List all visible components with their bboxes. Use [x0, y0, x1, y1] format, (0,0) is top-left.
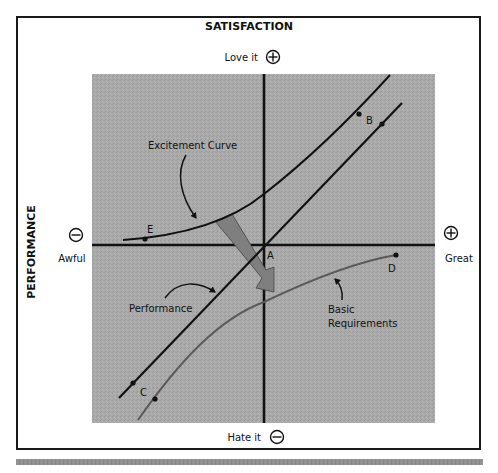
point-label-c: C [140, 387, 147, 398]
point-label-e: E [147, 224, 153, 235]
point-label-b: B [366, 115, 373, 126]
point-b-performance [379, 121, 384, 126]
bottom-axis-label: Hate it [227, 432, 261, 443]
point-label-a: A [267, 250, 274, 261]
point-b-excitement [356, 111, 361, 116]
point-e [142, 236, 147, 241]
point-label-d: D [388, 263, 396, 274]
performance-label: Performance [129, 303, 192, 314]
basic-requirements-label-line1: Basic [328, 304, 354, 315]
point-d [393, 252, 398, 257]
plus-circle-icon [267, 51, 280, 64]
right-axis-label: Great [445, 253, 473, 264]
minus-circle-icon [271, 431, 284, 444]
point-c-performance [130, 380, 135, 385]
basic-requirements-label-line2: Requirements [328, 318, 398, 329]
excitement-curve-label: Excitement Curve [148, 140, 237, 151]
kano-diagram: SATISFACTION Love it Hate it Awful Great… [0, 0, 498, 473]
minus-circle-icon [70, 229, 83, 242]
y-axis-title: PERFORMANCE [25, 205, 38, 299]
diagram-title: SATISFACTION [205, 20, 293, 33]
point-c-basic [152, 396, 157, 401]
top-axis-label: Love it [225, 52, 259, 63]
left-axis-label: Awful [58, 253, 85, 264]
plus-circle-icon [445, 227, 458, 240]
